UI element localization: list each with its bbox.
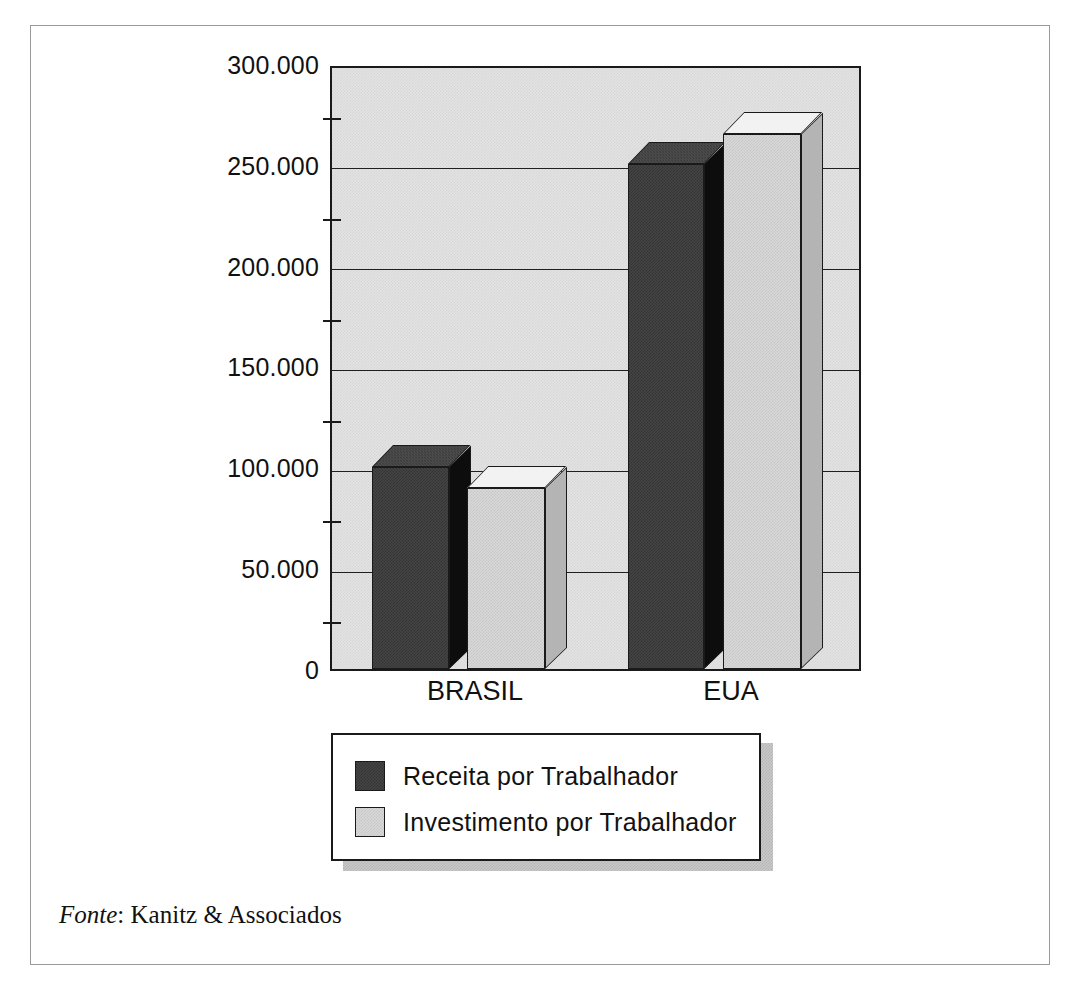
y-minor-tick-225000 (323, 219, 341, 221)
y-minor-tick-275000 (323, 118, 341, 120)
figure-frame: 300.000 250.000 200.000 150.000 100.000 … (30, 25, 1050, 965)
y-tick-label-300000: 300.000 (227, 51, 319, 80)
y-tick-label-50000: 50.000 (241, 555, 319, 584)
bar-front-face (628, 164, 704, 669)
source-label: Fonte (59, 901, 117, 928)
source-note: Fonte: Kanitz & Associados (59, 901, 342, 929)
y-tick-label-200000: 200.000 (227, 253, 319, 282)
figure-page: 300.000 250.000 200.000 150.000 100.000 … (0, 0, 1080, 992)
bar-brasil-receita[interactable] (372, 467, 449, 669)
legend-item-investimento[interactable]: Investimento por Trabalhador (355, 799, 759, 845)
bar-front-face (372, 467, 449, 669)
plot-area (330, 66, 861, 671)
y-tick-label-100000: 100.000 (227, 454, 319, 483)
y-minor-tick-75000 (323, 521, 341, 523)
bar-chart: 300.000 250.000 200.000 150.000 100.000 … (31, 26, 1051, 966)
bar-side-face (801, 113, 823, 669)
y-tick-label-0: 0 (305, 656, 319, 685)
source-separator: : (117, 901, 130, 928)
y-minor-tick-25000 (323, 622, 341, 624)
bar-side-face (545, 467, 567, 669)
legend-swatch-light-icon (355, 807, 385, 837)
x-tick-label-brasil: BRASIL (380, 676, 570, 707)
y-tick-label-250000: 250.000 (227, 152, 319, 181)
x-tick-label-eua: EUA (636, 676, 826, 707)
bar-front-face (723, 134, 801, 669)
source-value: Kanitz & Associados (131, 901, 342, 928)
chart-legend: Receita por Trabalhador Investimento por… (331, 733, 761, 861)
bar-eua-investimento[interactable] (723, 134, 801, 669)
legend-item-receita[interactable]: Receita por Trabalhador (355, 753, 759, 799)
y-minor-tick-125000 (323, 421, 341, 423)
legend-label-investimento: Investimento por Trabalhador (403, 808, 737, 837)
bar-front-face (467, 488, 545, 669)
legend-label-receita: Receita por Trabalhador (403, 762, 678, 791)
y-tick-label-150000: 150.000 (227, 353, 319, 382)
y-minor-tick-175000 (323, 320, 341, 322)
y-axis-labels: 300.000 250.000 200.000 150.000 100.000 … (91, 66, 319, 671)
bar-eua-receita[interactable] (628, 164, 704, 669)
legend-swatch-dark-icon (355, 761, 385, 791)
bar-brasil-investimento[interactable] (467, 488, 545, 669)
